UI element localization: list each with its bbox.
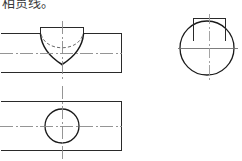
front-view <box>0 21 122 79</box>
side-view <box>178 14 238 80</box>
drawing-page: 相贯线。 <box>0 0 242 161</box>
engineering-drawing-canvas <box>0 0 242 161</box>
intersection-curve-left <box>41 34 63 65</box>
top-view-bore-circle <box>45 109 79 143</box>
top-view <box>0 86 122 160</box>
hidden-intersection-arc <box>41 35 83 48</box>
intersection-curve-right <box>62 34 84 65</box>
